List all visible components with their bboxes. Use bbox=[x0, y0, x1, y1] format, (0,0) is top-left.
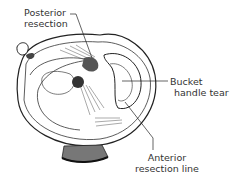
label-line: resection line bbox=[135, 163, 199, 174]
label-line: handle tear bbox=[170, 87, 229, 98]
posterior-horn-bump bbox=[17, 43, 28, 55]
label-line: Posterior bbox=[24, 7, 68, 18]
anterior-horn-knot bbox=[72, 76, 84, 88]
label-line: Anterior bbox=[135, 152, 199, 163]
label-anterior-resection-line: Anterior resection line bbox=[135, 152, 199, 174]
label-bucket-handle-tear: Bucket handle tear bbox=[170, 76, 229, 98]
label-line: resection bbox=[24, 18, 68, 29]
label-line: Bucket bbox=[170, 76, 229, 87]
label-posterior-resection: Posterior resection bbox=[24, 7, 68, 29]
